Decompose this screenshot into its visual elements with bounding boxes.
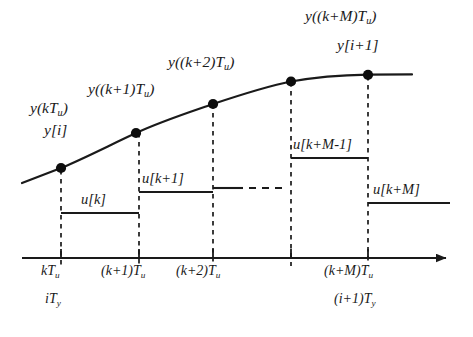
- axis-ticks: [61, 249, 368, 258]
- axis-label-kMTu: (k+M)Tu: [324, 264, 373, 280]
- label-y-i: y[i]: [44, 122, 67, 138]
- sample-dot-kMTu: [363, 70, 373, 80]
- axis-label-k1Tu: (k+1)Tu: [101, 264, 145, 280]
- label-u-k: u[k]: [81, 192, 106, 207]
- label-y-kTu: y(kTu): [30, 100, 68, 118]
- label-y-i1: y[i+1]: [337, 37, 378, 53]
- diagram-vector-layer: [0, 0, 473, 337]
- label-y-k2Tu: y((k+2)Tu): [168, 54, 234, 72]
- label-y-kMTu: y((k+M)Tu): [305, 8, 377, 26]
- output-curve: [22, 74, 412, 183]
- label-u-k1: u[k+1]: [142, 171, 184, 186]
- sample-dot-k2Tu: [208, 99, 218, 109]
- label-u-kM1: u[k+M-1]: [293, 137, 352, 152]
- axis-label-iTy: iTy: [45, 292, 61, 308]
- axis-label-i1Ty: (i+1)Ty: [334, 292, 376, 308]
- axis-label-k2Tu: (k+2)Tu: [176, 264, 220, 280]
- sample-dot-mid: [286, 76, 296, 86]
- label-y-k1Tu: y((k+1)Tu): [88, 81, 154, 99]
- figure-canvas: y(kTu) y[i] y((k+1)Tu) y((k+2)Tu) y((k+M…: [0, 0, 473, 337]
- label-u-kM: u[k+M]: [373, 182, 420, 197]
- sample-dot-k1Tu: [131, 128, 141, 138]
- sample-dot-kTu: [56, 163, 66, 173]
- axis-label-kTu: kTu: [41, 264, 60, 280]
